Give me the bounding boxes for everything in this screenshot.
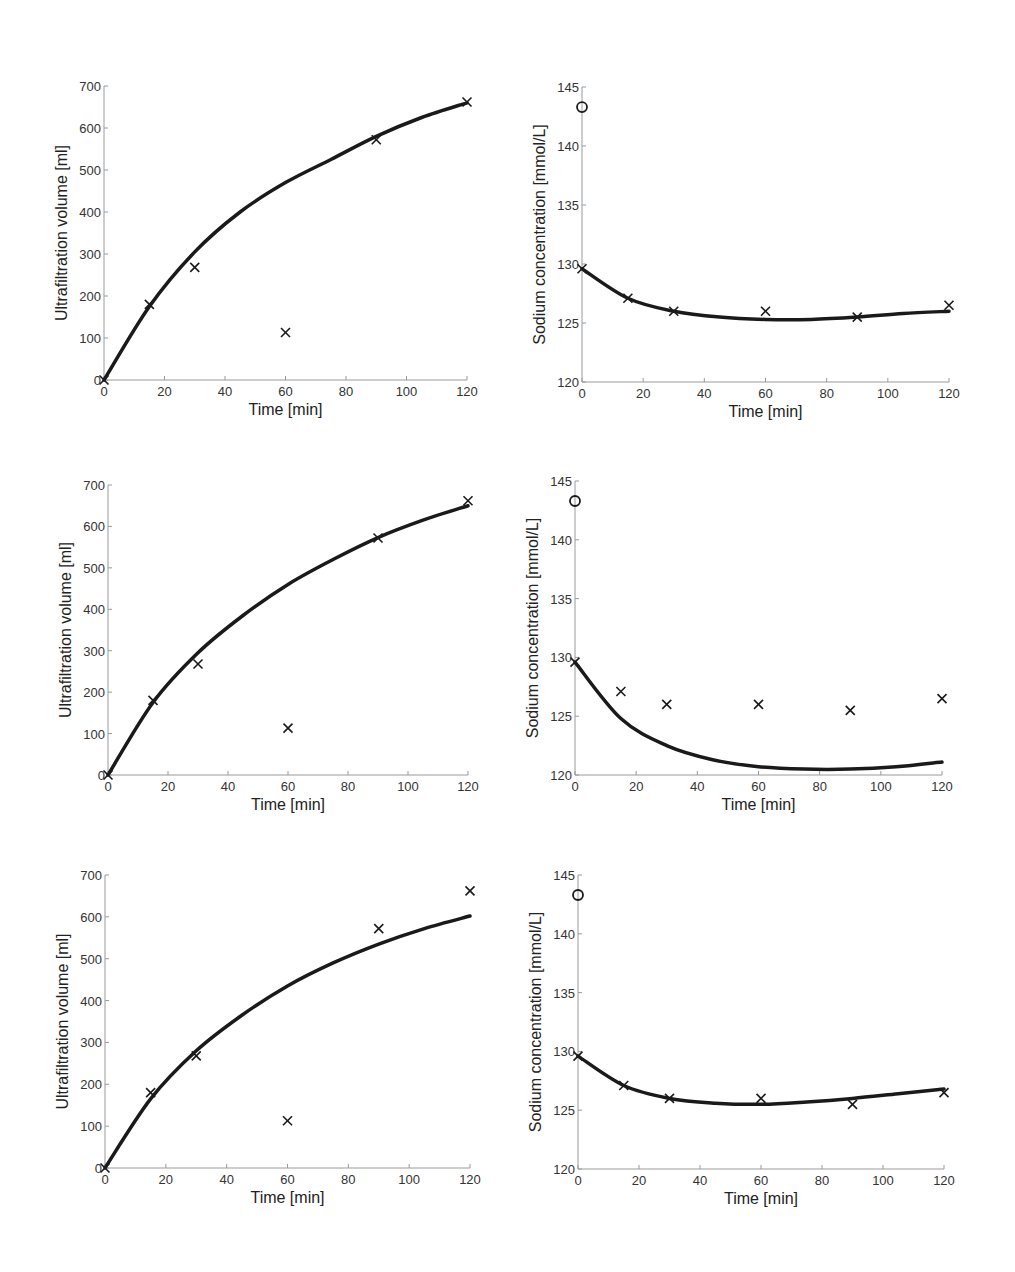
y-tick-label: 135 [557, 198, 579, 213]
y-axis-label: Ultrafiltration volume [ml] [57, 542, 74, 718]
y-tick-label: 700 [79, 79, 101, 94]
measured-point-x-marker [374, 924, 383, 933]
measured-point-x-marker [938, 694, 947, 703]
x-tick-label: 120 [459, 1172, 481, 1187]
x-tick-label: 120 [931, 779, 953, 794]
y-tick-label: 700 [83, 478, 105, 493]
y-tick-label: 400 [80, 994, 102, 1009]
model-curve [578, 1056, 944, 1104]
x-tick-label: 80 [341, 1172, 355, 1187]
model-curve [575, 662, 942, 769]
model-curve [104, 103, 467, 380]
x-axis-label: Time [min] [724, 1190, 798, 1207]
x-tick-label: 60 [281, 779, 295, 794]
x-tick-label: 60 [278, 384, 292, 399]
x-tick-label: 0 [100, 384, 107, 399]
x-tick-label: 0 [101, 1172, 108, 1187]
panel-ultrafiltration-row3: 0204060801001200100200300400500600700Tim… [54, 868, 481, 1206]
y-tick-label: 600 [79, 121, 101, 136]
x-tick-label: 80 [819, 386, 833, 401]
y-tick-label: 120 [553, 1162, 575, 1177]
x-tick-label: 40 [690, 779, 704, 794]
measured-point-x-marker [190, 263, 199, 272]
y-tick-label: 140 [553, 927, 575, 942]
x-tick-label: 60 [758, 386, 772, 401]
y-tick-label: 100 [83, 727, 105, 742]
measured-point-x-marker [616, 687, 625, 696]
model-curve [105, 916, 470, 1168]
panel-sodium-row1: 020406080100120120125130135140145Time [m… [531, 80, 960, 420]
y-tick-label: 130 [557, 257, 579, 272]
y-tick-label: 400 [79, 205, 101, 220]
y-tick-label: 300 [79, 247, 101, 262]
y-tick-label: 600 [80, 910, 102, 925]
y-tick-label: 400 [83, 602, 105, 617]
measured-point-x-marker [194, 659, 203, 668]
y-tick-label: 300 [80, 1035, 102, 1050]
y-tick-label: 600 [83, 519, 105, 534]
x-tick-label: 80 [815, 1173, 829, 1188]
measured-point-x-marker [757, 1094, 766, 1103]
x-tick-label: 100 [877, 386, 899, 401]
x-tick-label: 40 [693, 1173, 707, 1188]
x-tick-label: 40 [218, 384, 232, 399]
y-tick-label: 700 [80, 868, 102, 883]
x-tick-label: 40 [219, 1172, 233, 1187]
measured-point-x-marker [463, 97, 472, 106]
y-tick-label: 120 [550, 768, 572, 783]
x-tick-label: 120 [457, 779, 479, 794]
x-tick-label: 0 [571, 779, 578, 794]
y-tick-label: 200 [80, 1077, 102, 1092]
y-tick-label: 130 [553, 1044, 575, 1059]
x-tick-label: 20 [161, 779, 175, 794]
x-tick-label: 40 [221, 779, 235, 794]
measured-point-x-marker [945, 301, 954, 310]
panel-sodium-row3: 020406080100120120125130135140145Time [m… [527, 868, 955, 1207]
y-tick-label: 300 [83, 644, 105, 659]
y-tick-label: 125 [550, 709, 572, 724]
x-tick-label: 120 [456, 384, 478, 399]
y-tick-label: 140 [557, 139, 579, 154]
measured-point-x-marker [284, 724, 293, 733]
measured-point-x-marker [848, 1100, 857, 1109]
x-tick-label: 60 [751, 779, 765, 794]
model-curve [108, 506, 468, 775]
x-tick-label: 100 [870, 779, 892, 794]
x-tick-label: 120 [938, 386, 960, 401]
y-tick-label: 500 [80, 952, 102, 967]
x-tick-label: 0 [578, 386, 585, 401]
x-axis-label: Time [min] [248, 401, 322, 418]
x-tick-label: 100 [396, 384, 418, 399]
x-tick-label: 40 [697, 386, 711, 401]
y-tick-label: 200 [83, 685, 105, 700]
y-tick-label: 145 [557, 80, 579, 95]
x-axis-label: Time [min] [721, 796, 795, 813]
y-axis-label: Sodium concentration [mmol/L] [527, 912, 544, 1133]
y-axis-label: Sodium concentration [mmol/L] [524, 518, 541, 739]
y-axis-label: Ultrafiltration volume [ml] [53, 145, 70, 321]
y-axis-label: Ultrafiltration volume [ml] [54, 933, 71, 1109]
x-tick-label: 100 [398, 1172, 420, 1187]
y-tick-label: 100 [80, 1119, 102, 1134]
panel-ultrafiltration-row1: 0204060801001200100200300400500600700Tim… [53, 79, 478, 418]
measured-point-x-marker [761, 307, 770, 316]
measured-point-x-marker [662, 700, 671, 709]
panel-sodium-row2: 020406080100120120125130135140145Time [m… [524, 474, 953, 813]
x-tick-label: 20 [629, 779, 643, 794]
x-tick-label: 60 [754, 1173, 768, 1188]
y-tick-label: 500 [83, 561, 105, 576]
x-tick-label: 20 [636, 386, 650, 401]
x-tick-label: 60 [280, 1172, 294, 1187]
y-tick-label: 120 [557, 375, 579, 390]
y-tick-label: 140 [550, 533, 572, 548]
y-tick-label: 125 [557, 316, 579, 331]
measured-point-x-marker [754, 700, 763, 709]
y-tick-label: 125 [553, 1103, 575, 1118]
y-tick-label: 145 [550, 474, 572, 489]
x-tick-label: 100 [872, 1173, 894, 1188]
measured-point-x-marker [846, 706, 855, 715]
measured-point-x-marker [464, 496, 473, 505]
measured-point-x-marker [283, 1116, 292, 1125]
x-tick-label: 20 [159, 1172, 173, 1187]
x-axis-label: Time [min] [250, 1189, 324, 1206]
